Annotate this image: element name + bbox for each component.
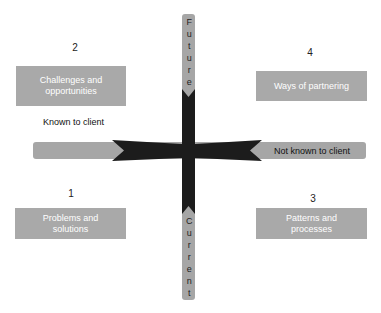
- quadrant-4-box: Ways of partnering: [256, 71, 367, 101]
- quadrant-2-box: Challenges and opportunities: [16, 66, 126, 106]
- quadrant-2-line1: Challenges and: [40, 75, 103, 86]
- quadrant-1-number: 1: [61, 188, 81, 199]
- quadrant-4-line1: Ways of partnering: [274, 81, 349, 92]
- quadrant-2-line2: opportunities: [40, 86, 103, 97]
- quadrant-2-number: 2: [65, 42, 85, 53]
- quadrant-1-line1: Problems and: [43, 213, 99, 224]
- quadrant-3-number: 3: [303, 193, 323, 204]
- quadrant-4-number: 4: [300, 47, 320, 58]
- quadrant-1-box: Problems and solutions: [15, 208, 126, 239]
- quadrant-1-line2: solutions: [43, 224, 99, 235]
- quadrant-3-box: Patterns and processes: [256, 208, 367, 239]
- future-text: Future: [184, 17, 194, 89]
- axis-label-known: Known to client: [43, 117, 104, 127]
- cross-shape: [112, 89, 262, 214]
- quadrant-3-line2: processes: [286, 224, 337, 235]
- axis-label-future: Future: [183, 17, 195, 89]
- axis-label-current: Current: [183, 216, 195, 300]
- axis-label-not-known: Not known to client: [274, 146, 350, 156]
- current-text: Current: [184, 216, 194, 300]
- quadrant-3-line1: Patterns and: [286, 213, 337, 224]
